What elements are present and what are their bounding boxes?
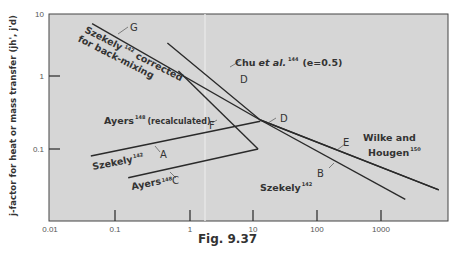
annotation-sup: 148 — [135, 114, 146, 120]
annotation-text: Chu — [235, 57, 256, 68]
annotation-text: Hougen — [368, 147, 409, 158]
series-label-B: B — [317, 168, 324, 179]
annotation-sup: 142 — [302, 181, 313, 187]
y-tick-10: 10 — [35, 10, 44, 19]
figure-caption: Fig. 9.37 — [0, 232, 455, 246]
y-tick-1: 1 — [40, 72, 45, 81]
series-label-A: A — [160, 149, 167, 160]
series-label-E: E — [343, 137, 349, 148]
annotation-text: (e=0.5) — [303, 57, 343, 68]
annotation-text: (recalculated) — [147, 117, 210, 126]
annotation-text: Szekely — [260, 182, 302, 193]
annotation-wilke-line1: Wilke and — [363, 132, 416, 143]
y-tick-0.1: 0.1 — [33, 145, 45, 154]
chart: 10 1 0.1 0.01 0.1 1 10 100 1000 j-factor… — [0, 0, 455, 254]
series-label-G: G — [130, 22, 138, 33]
annotation-sup: 150 — [410, 146, 421, 152]
series-label-D-lower: D — [280, 113, 288, 124]
annotation-sup: 144 — [288, 56, 299, 62]
y-axis-label: j-factor for heat or mass transfer (jh',… — [8, 15, 18, 217]
annotation-text: Ayers — [104, 115, 134, 126]
annotation-text: et al. — [259, 57, 287, 68]
series-label-C: C — [172, 175, 179, 186]
series-label-D-upper: D — [240, 74, 248, 85]
